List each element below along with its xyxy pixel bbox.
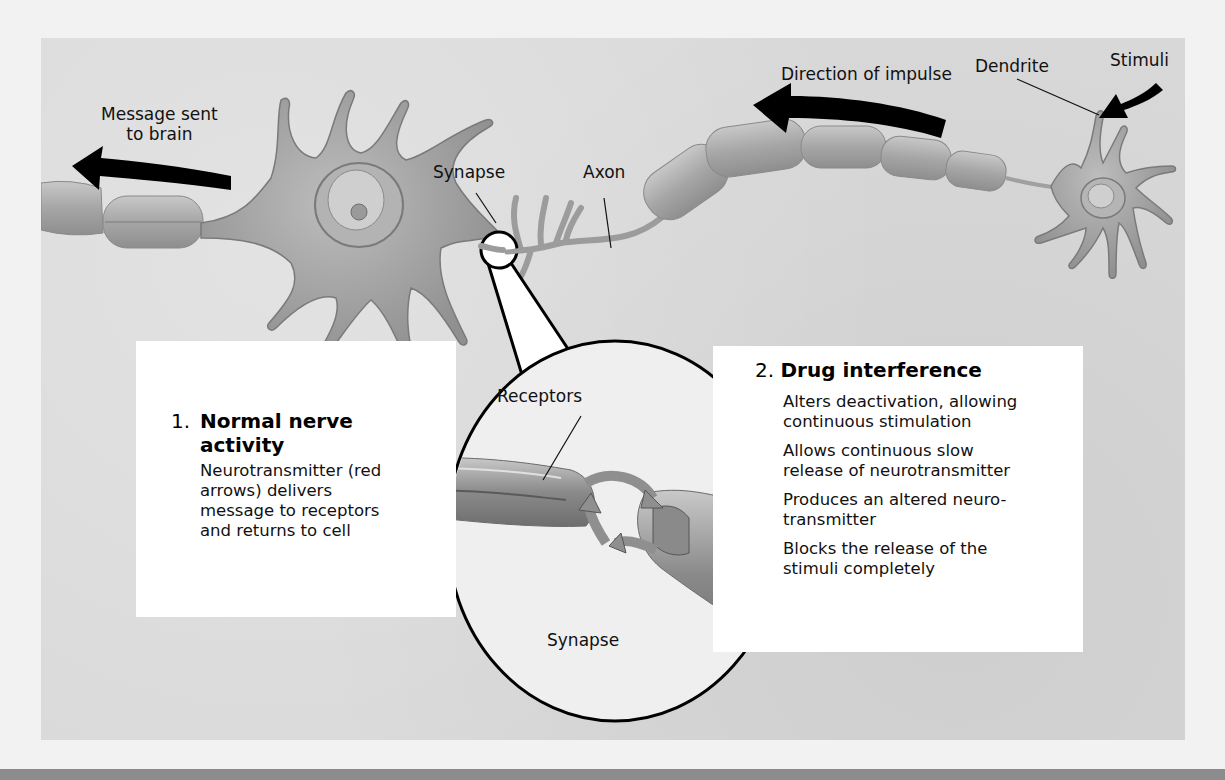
drug-effect-1-line-1: Alters deactivation, allowing [783, 392, 1017, 412]
normal-activity-description: Neurotransmitter (red arrows) delivers m… [200, 461, 381, 541]
dendrite-leader-line [1017, 79, 1099, 115]
drug-interference-number: 2. [755, 358, 774, 382]
diagram-panel: Message sent to brain Direction of impul… [41, 38, 1185, 740]
left-myelin-sheath [41, 181, 203, 248]
drug-effect-item: Blocks the release of the stimuli comple… [783, 539, 1017, 579]
normal-activity-title-line-2: activity [200, 433, 353, 457]
dendrite-label: Dendrite [975, 56, 1049, 76]
message-sent-line-1: Message sent [101, 104, 218, 124]
right-neuron [1035, 111, 1175, 278]
normal-activity-number: 1. [171, 409, 190, 433]
stimuli-arrow [1099, 83, 1163, 118]
drug-effect-3-line-2: transmitter [783, 510, 1017, 530]
direction-of-impulse-label: Direction of impulse [781, 64, 952, 84]
drug-effect-item: Produces an altered neuro- transmitter [783, 490, 1017, 530]
synapse-label: Synapse [433, 162, 505, 182]
drug-effect-2-line-1: Allows continuous slow [783, 441, 1017, 461]
axon-label: Axon [583, 162, 625, 182]
normal-activity-line-1: Neurotransmitter (red [200, 461, 381, 481]
drug-interference-box: 2. Drug interference Alters deactivation… [713, 346, 1083, 652]
drug-effect-1-line-2: continuous stimulation [783, 412, 1017, 432]
drug-effect-4-line-1: Blocks the release of the [783, 539, 1017, 559]
drug-interference-list: Alters deactivation, allowing continuous… [783, 392, 1017, 588]
drug-effect-3-line-1: Produces an altered neuro- [783, 490, 1017, 510]
drug-effect-2-line-2: release of neurotransmitter [783, 461, 1017, 481]
normal-activity-title: Normal nerve activity [200, 409, 353, 457]
drug-effect-item: Alters deactivation, allowing continuous… [783, 392, 1017, 432]
drug-effect-4-line-2: stimuli completely [783, 559, 1017, 579]
normal-activity-box: 1. Normal nerve activity Neurotransmitte… [136, 341, 456, 617]
drug-effect-item: Allows continuous slow release of neurot… [783, 441, 1017, 481]
drug-interference-title: Drug interference [780, 358, 981, 382]
normal-activity-heading: 1. [171, 409, 190, 433]
normal-activity-line-4: and returns to cell [200, 521, 381, 541]
message-sent-label: Message sent to brain [101, 104, 218, 144]
stimuli-label: Stimuli [1110, 50, 1169, 70]
bottom-bar [0, 769, 1225, 780]
normal-activity-title-line-1: Normal nerve [200, 409, 353, 433]
message-sent-line-2: to brain [101, 124, 218, 144]
left-neuron [201, 91, 501, 370]
message-to-brain-arrow [72, 146, 231, 190]
right-myelin-sheath [634, 116, 1061, 229]
synapse-inset-label: Synapse [547, 630, 619, 650]
drug-interference-heading: 2. Drug interference [755, 358, 982, 382]
receptors-label: Receptors [497, 386, 582, 406]
normal-activity-line-2: arrows) delivers [200, 481, 381, 501]
normal-activity-line-3: message to receptors [200, 501, 381, 521]
